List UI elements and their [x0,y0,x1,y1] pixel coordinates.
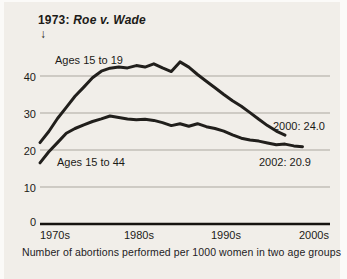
roe-annotation-year: 1973: [38,13,70,27]
series-label-ages-15-44: Ages 15 to 44 [57,156,125,168]
x-axis-tick-label-1990s: 1990s [211,229,241,241]
y-axis-tick-label-0: 0 [6,216,36,228]
roe-v-wade-annotation: 1973: Roe v. Wade [38,13,146,27]
y-axis-tick-label-20: 20 [6,145,36,157]
roe-annotation-case-name: Roe v. Wade [73,13,146,27]
series-label-ages-15-19: Ages 15 to 19 [55,54,123,66]
y-axis-tick-label-40: 40 [6,71,36,83]
y-axis-tick-label-30: 30 [6,108,36,120]
abortion-rates-figure: 1973: Roe v. Wade ↓ Ages 15 to 19 Ages 1… [4,2,340,279]
x-axis-tick-label-1970s: 1970s [40,229,70,241]
endpoint-annotation-2000: 2000: 24.0 [273,120,325,132]
x-axis-tick-label-2000s: 2000s [299,229,329,241]
screenshot-root: { "chart_data": { "type": "line", "title… [0,0,347,279]
x-axis-tick-label-1980s: 1980s [124,229,154,241]
endpoint-annotation-2002: 2002: 20.9 [259,156,311,168]
y-axis-tick-label-10: 10 [6,182,36,194]
series-line-ages-15-19 [40,62,285,143]
figure-caption: Number of abortions performed per 1000 w… [22,246,341,258]
down-arrow-icon: ↓ [40,27,46,41]
